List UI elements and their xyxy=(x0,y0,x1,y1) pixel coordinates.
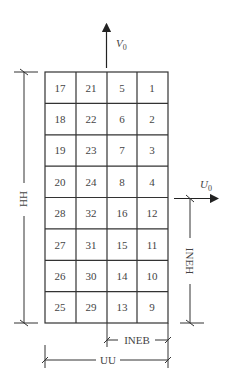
cell-label: 9 xyxy=(149,301,155,313)
cell-label: 16 xyxy=(117,207,129,219)
v0-label: V0 xyxy=(116,37,127,52)
hh-label: HH xyxy=(18,191,30,207)
cell-label: 6 xyxy=(119,113,125,125)
cell-label: 18 xyxy=(55,113,67,125)
u0-arrow: U0 xyxy=(174,178,218,199)
cell-label: 8 xyxy=(119,176,125,188)
cell-label: 5 xyxy=(119,82,125,94)
cell-label: 4 xyxy=(149,176,155,188)
cell-label: 20 xyxy=(55,176,67,188)
ineb-label: INEB xyxy=(124,334,150,346)
cell-label: 23 xyxy=(86,144,98,156)
cell-label: 1 xyxy=(149,82,155,94)
cell-label: 32 xyxy=(86,207,97,219)
cell-label: 15 xyxy=(117,239,129,251)
cell-label: 24 xyxy=(86,176,98,188)
cell-label: 25 xyxy=(55,301,67,313)
grid-diagram: 17 21 5 1 18 22 6 2 19 23 7 3 20 24 8 4 … xyxy=(0,0,231,384)
cell-label: 7 xyxy=(119,144,125,156)
v0-arrow: V0 xyxy=(107,24,127,68)
cell-label: 14 xyxy=(117,270,129,282)
cell-label: 27 xyxy=(55,239,67,251)
cell-label: 26 xyxy=(55,270,67,282)
ineh-label: INEH xyxy=(184,248,196,274)
cell-label: 2 xyxy=(149,113,155,125)
u0-label: U0 xyxy=(200,178,212,193)
cell-label: 29 xyxy=(86,301,98,313)
cell-label: 30 xyxy=(86,270,98,282)
cell-label: 10 xyxy=(147,270,159,282)
cell-label: 21 xyxy=(86,82,97,94)
cell-label: 13 xyxy=(117,301,129,313)
cell-label: 22 xyxy=(86,113,97,125)
element-grid xyxy=(45,72,168,323)
cell-label: 17 xyxy=(55,82,67,94)
cell-label: 28 xyxy=(55,207,67,219)
cell-label: 12 xyxy=(147,207,158,219)
uu-label: UU xyxy=(100,354,116,366)
cell-label: 31 xyxy=(86,239,97,251)
cell-label: 19 xyxy=(55,144,67,156)
cell-label: 3 xyxy=(149,144,155,156)
cell-label: 11 xyxy=(147,239,158,251)
